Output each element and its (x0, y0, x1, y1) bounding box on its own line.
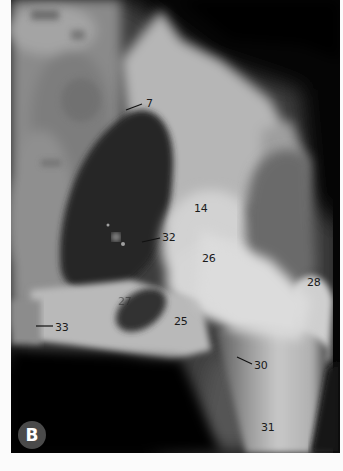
label-31: 31 (261, 422, 274, 433)
label-32: 32 (162, 232, 175, 243)
label-7: 7 (146, 98, 153, 109)
label-28: 28 (307, 277, 320, 288)
label-14: 14 (194, 203, 207, 214)
panel-letter-badge: B (18, 421, 46, 449)
label-27: 27 (118, 296, 131, 307)
radiograph-graphic (11, 0, 340, 453)
label-25: 25 (174, 316, 187, 327)
label-30: 30 (254, 360, 267, 371)
xray-image: 7 14 32 26 27 28 25 33 30 31 B (11, 0, 340, 453)
label-33: 33 (55, 322, 68, 333)
label-26: 26 (202, 253, 215, 264)
